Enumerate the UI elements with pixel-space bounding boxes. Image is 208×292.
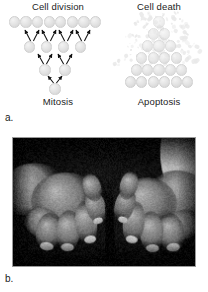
apoptotic-body — [135, 38, 138, 41]
apoptosis-cell — [171, 52, 182, 63]
apoptosis-cell — [171, 76, 182, 87]
apoptosis-cell — [159, 52, 170, 63]
apoptotic-body — [125, 36, 126, 38]
apoptotic-body — [140, 37, 141, 39]
apoptosis-cell — [148, 28, 159, 39]
apoptosis-cell — [153, 40, 164, 51]
figure-part-b-photograph — [12, 137, 196, 267]
apoptotic-body — [131, 45, 134, 48]
mitosis-cell — [44, 16, 55, 27]
apoptosis-cell — [159, 28, 170, 39]
mitosis-cell — [90, 16, 101, 27]
apoptotic-body — [113, 64, 115, 66]
apoptosis-cell — [153, 64, 164, 75]
mitosis-cell — [39, 64, 50, 75]
apoptotic-body — [137, 46, 139, 49]
apoptotic-body — [134, 41, 136, 43]
apoptosis-cell — [182, 76, 193, 87]
mitosis-cell — [24, 41, 35, 52]
apoptosis-cell — [159, 76, 170, 87]
apoptotic-body — [127, 46, 129, 48]
mitosis-cell — [41, 41, 52, 52]
apoptotic-body — [177, 12, 179, 14]
apoptotic-body — [129, 43, 131, 45]
apoptosis-cell — [125, 76, 136, 87]
mitosis-cell-stack — [0, 0, 110, 96]
hands-syndactyly-photo — [13, 138, 195, 266]
apoptotic-body — [181, 19, 184, 22]
mitosis-cell — [75, 41, 86, 52]
apoptotic-body — [174, 28, 179, 33]
apoptotic-body — [117, 64, 120, 66]
apoptotic-body — [165, 17, 168, 21]
mitosis-cell — [32, 16, 43, 27]
mitosis-caption: Mitosis — [6, 96, 110, 107]
figure-letter-a: a. — [5, 112, 13, 123]
apoptosis-cell — [136, 76, 147, 87]
apoptotic-body — [130, 49, 132, 51]
apoptosis-cell — [136, 52, 147, 63]
apoptosis-cell — [131, 64, 142, 75]
apoptosis-cell — [153, 16, 164, 27]
figure-letter-b: b. — [5, 273, 13, 284]
mitosis-cell — [49, 83, 60, 94]
apoptosis-cell — [148, 52, 159, 63]
apoptotic-body — [124, 53, 129, 58]
mitosis-cell — [67, 16, 78, 27]
apoptotic-body — [183, 21, 188, 26]
apoptotic-body — [170, 15, 177, 21]
apoptosis-cell — [142, 64, 153, 75]
apoptotic-body — [130, 54, 132, 56]
apoptosis-cell — [142, 40, 153, 51]
apoptosis-cell — [176, 64, 187, 75]
apoptotic-body — [171, 22, 173, 24]
mitosis-cell — [59, 64, 70, 75]
apoptosis-cell — [165, 40, 176, 51]
apoptosis-cell-pyramid — [110, 10, 208, 96]
apoptosis-cell — [165, 64, 176, 75]
apoptotic-body — [197, 48, 203, 54]
mitosis-cell — [20, 16, 31, 27]
mitosis-cell — [9, 16, 20, 27]
figure-part-a: Cell division Cell death Mitosis Apoptos… — [0, 0, 208, 128]
mitosis-cell — [58, 41, 69, 52]
apoptosis-cell — [148, 76, 159, 87]
mitosis-cell — [78, 16, 89, 27]
mitosis-cell — [55, 16, 66, 27]
apoptotic-body — [129, 58, 133, 62]
apoptosis-caption: Apoptosis — [112, 96, 206, 107]
